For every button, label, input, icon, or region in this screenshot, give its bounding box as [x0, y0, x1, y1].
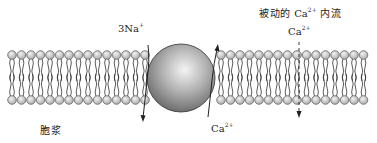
exchanger-protein: [147, 44, 215, 112]
membrane-diagram: [0, 0, 377, 143]
passive-ca-influx-label: 被动的 Ca2+ 内流: [259, 9, 341, 19]
ca-efflux-label: Ca2+: [211, 124, 233, 134]
ca-channel-label: Ca2+: [288, 27, 310, 37]
cytoplasm-label: 胞浆: [40, 126, 61, 136]
na-ion-label: 3Na+: [118, 24, 144, 34]
